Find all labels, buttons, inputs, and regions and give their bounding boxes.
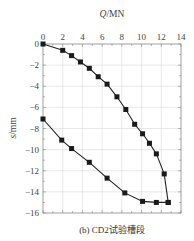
loading-point bbox=[162, 171, 167, 176]
unloading-point bbox=[41, 116, 46, 121]
loading-point bbox=[78, 59, 83, 64]
unloading-point bbox=[122, 190, 127, 195]
x-tick-label: 2 bbox=[60, 32, 65, 42]
y-tick-label: 0 bbox=[35, 39, 40, 49]
loading-point bbox=[87, 66, 92, 71]
x-tick-label: 6 bbox=[100, 32, 105, 42]
series bbox=[41, 42, 171, 205]
loading-point bbox=[154, 151, 159, 156]
x-tick-label: 12 bbox=[157, 32, 166, 42]
y-tick-label: −2 bbox=[29, 60, 39, 70]
x-tick-label: 4 bbox=[80, 32, 85, 42]
y-tick-label: −12 bbox=[25, 166, 39, 176]
axis-ticks: 024681012140−2−4−6−8−10−12−14−16 bbox=[25, 32, 186, 218]
loading-point bbox=[96, 74, 101, 79]
y-axis-unit: /mm bbox=[8, 117, 18, 135]
loading-point bbox=[41, 42, 46, 47]
y-tick-label: −8 bbox=[29, 124, 39, 134]
unloading-point bbox=[87, 160, 92, 165]
y-tick-label: −10 bbox=[25, 145, 40, 155]
y-tick-label: −4 bbox=[29, 81, 39, 91]
y-tick-label: −6 bbox=[29, 102, 39, 112]
loading-point bbox=[147, 141, 152, 146]
x-tick-label: 10 bbox=[137, 32, 147, 42]
x-tick-label: 8 bbox=[120, 32, 125, 42]
loading-point bbox=[132, 122, 137, 127]
unloading-line bbox=[43, 119, 168, 202]
loading-point bbox=[140, 131, 145, 136]
x-tick-label: 14 bbox=[177, 32, 187, 42]
loading-point bbox=[114, 94, 119, 99]
loading-point bbox=[60, 48, 65, 53]
load-settlement-chart: 024681012140−2−4−6−8−10−12−14−16 Q/MN s/… bbox=[0, 0, 194, 241]
y-tick-label: −16 bbox=[25, 208, 40, 218]
unloading-point bbox=[140, 199, 145, 204]
unloading-point bbox=[166, 200, 171, 205]
y-axis-title: s/mm bbox=[8, 117, 18, 139]
loading-point bbox=[123, 107, 128, 112]
x-tick-label: 0 bbox=[41, 32, 46, 42]
y-tick-label: −14 bbox=[25, 187, 40, 197]
x-axis-title: Q/MN bbox=[100, 9, 125, 19]
grid bbox=[43, 44, 181, 213]
figure-caption: (b) CD2试验槽段 bbox=[79, 224, 145, 235]
loading-point bbox=[105, 82, 110, 87]
unloading-point bbox=[69, 146, 74, 151]
unloading-point bbox=[154, 200, 159, 205]
loading-point bbox=[69, 53, 74, 58]
unloading-point bbox=[105, 176, 110, 181]
unloading-point bbox=[59, 138, 64, 143]
x-axis-unit: /MN bbox=[106, 9, 124, 19]
